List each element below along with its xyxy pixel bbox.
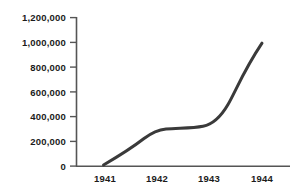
line-chart: 1,200,000 1,000,000 800,000 600,000 400,… bbox=[0, 0, 301, 191]
x-tick-label-1941: 1941 bbox=[94, 173, 116, 184]
y-tick-label-0: 0 bbox=[61, 161, 66, 172]
y-tick-label-400000: 400,000 bbox=[30, 111, 66, 122]
x-tick-label-1942: 1942 bbox=[146, 173, 168, 184]
y-tick-label-1200000: 1,200,000 bbox=[22, 12, 66, 23]
y-tick-label-800000: 800,000 bbox=[30, 62, 66, 73]
y-tick-label-1000000: 1,000,000 bbox=[22, 37, 66, 48]
chart-canvas: 1,200,000 1,000,000 800,000 600,000 400,… bbox=[0, 0, 301, 191]
x-tick-label-1943: 1943 bbox=[198, 173, 220, 184]
y-tick-label-600000: 600,000 bbox=[30, 87, 66, 98]
x-tick-label-1944: 1944 bbox=[251, 173, 273, 184]
y-tick-label-200000: 200,000 bbox=[30, 136, 66, 147]
